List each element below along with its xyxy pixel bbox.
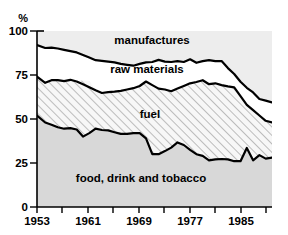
stacked-area-chart: % 100 75 50 25 0 1953 1961 1969 1977 198… [0,0,288,235]
series-label-manufactures: manufactures [114,34,189,46]
y-tick-label-25: 25 [15,157,28,169]
series-label-raw-materials: raw materials [110,63,184,75]
series-label-food-drink-tobacco: food, drink and tobacco [76,172,206,184]
x-tick-label-1953: 1953 [24,215,50,227]
y-tick-label-100: 100 [9,25,28,37]
y-tick-label-50: 50 [15,113,28,125]
chart-figure: % 100 75 50 25 0 1953 1961 1969 1977 198… [0,0,288,235]
y-axis-unit-label: % [18,12,28,24]
y-tick-label-0: 0 [22,201,28,213]
x-tick-label-1977: 1977 [177,215,203,227]
x-tick-label-1985: 1985 [228,215,254,227]
y-tick-label-75: 75 [15,69,28,81]
x-tick-label-1969: 1969 [126,215,152,227]
x-tick-label-1961: 1961 [75,215,101,227]
series-label-fuel: fuel [140,108,160,120]
